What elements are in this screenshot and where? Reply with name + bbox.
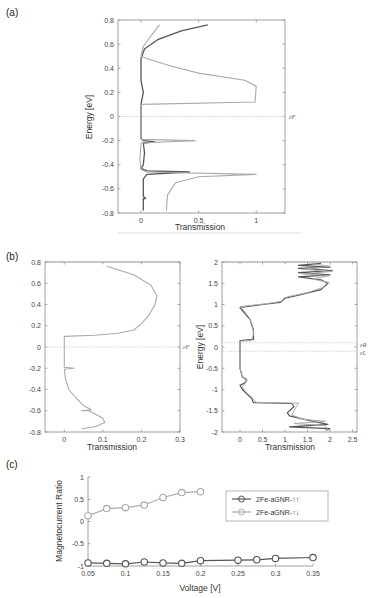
y-tick-label: 0	[37, 344, 41, 351]
y-tick-label: 0.6	[31, 280, 41, 287]
x-tick-label: 0.35	[306, 570, 320, 577]
data-point-marker	[197, 488, 203, 494]
data-point-marker	[272, 555, 278, 561]
fermi-label-a: εF	[289, 113, 297, 120]
y-tick-label: -1	[212, 386, 218, 393]
y-tick-label: 1.5	[208, 280, 218, 287]
figure-canvas: (a) (b) (c) 00.51-0.8-0.6-0.4-0.200.20.4…	[0, 0, 376, 598]
panel-label-a: (a)	[6, 7, 18, 18]
x-tick-label: 0	[238, 436, 242, 443]
y-tick-label: 0.2	[104, 89, 114, 96]
y-tick-label: -1.5	[206, 407, 218, 414]
y-tick-label: 0	[80, 518, 84, 525]
data-point-marker	[85, 513, 91, 519]
chart-b-right-xlabel: Transmission	[265, 442, 315, 452]
x-tick-label: 2	[328, 436, 332, 443]
fermi-label-right: εR	[360, 341, 367, 348]
data-point-marker	[85, 560, 91, 566]
chart-b-right-ylabel: Energy [eV]	[195, 325, 205, 369]
series-dark	[141, 25, 208, 211]
series-light	[140, 25, 256, 211]
series-light	[240, 264, 332, 431]
y-tick-label: -0.5	[72, 540, 84, 547]
data-point-marker	[310, 554, 316, 560]
y-tick-label: -0.5	[206, 365, 218, 372]
series-dark	[240, 263, 332, 430]
y-tick-label: -0.6	[102, 185, 114, 192]
chart-a: 00.51-0.8-0.6-0.4-0.200.20.40.60.8	[102, 17, 285, 225]
data-point-marker	[122, 561, 128, 567]
y-tick-label: 2	[214, 259, 218, 266]
data-point-marker	[235, 557, 241, 563]
y-tick-label: 0.2	[31, 322, 41, 329]
chart-c-ylabel: Magnetocurrent Ratio	[54, 480, 64, 562]
y-tick-label: -0.6	[29, 407, 41, 414]
panel-label-c: (c)	[6, 459, 18, 470]
chart-b-right: 00.511.522.5-2-1.5-1-0.500.511.52	[206, 259, 358, 444]
data-point-marker	[160, 560, 166, 566]
data-point-marker	[104, 560, 110, 566]
x-tick-label: 0.3	[175, 436, 185, 443]
y-tick-label: 0.4	[31, 301, 41, 308]
chart-a-ylabel: Energy [eV]	[84, 95, 94, 139]
y-tick-label: 0.5	[74, 496, 84, 503]
y-tick-label: 0.6	[104, 41, 114, 48]
x-tick-label: 0.2	[196, 570, 206, 577]
data-point-marker	[122, 505, 128, 511]
x-tick-label: 2.5	[348, 436, 358, 443]
panel-label-b: (b)	[6, 251, 18, 262]
series-light	[64, 266, 157, 429]
chart-a-xlabel: Transmission	[175, 222, 225, 232]
chart-b-left: 00.10.20.3-0.8-0.6-0.4-0.200.20.40.60.8	[29, 259, 185, 444]
y-tick-label: 0	[110, 113, 114, 120]
data-point-marker	[160, 494, 166, 500]
y-tick-label: 0.4	[104, 65, 114, 72]
y-tick-label: -0.2	[29, 365, 41, 372]
y-tick-label: -0.8	[102, 210, 114, 217]
y-tick-label: 1	[214, 301, 218, 308]
y-tick-label: -0.2	[102, 137, 114, 144]
y-tick-label: 0.5	[208, 322, 218, 329]
x-tick-label: 0.15	[156, 570, 170, 577]
chart-c: 0.050.10.150.20.250.30.35-1-0.500.51	[72, 474, 320, 578]
data-point-marker	[179, 489, 185, 495]
chart-b-left-xlabel: Transmission	[87, 442, 137, 452]
x-tick-label: 0	[139, 217, 143, 224]
data-point-marker	[254, 557, 260, 563]
data-point-marker	[179, 560, 185, 566]
y-tick-label: -2	[212, 429, 218, 436]
chart-c-legend: 2Fe-aGNR-↑↑ 2Fe-aGNR-↑↓	[226, 491, 328, 521]
chart-c-xlabel: Voltage [V]	[179, 583, 220, 593]
data-point-marker	[141, 559, 147, 565]
y-tick-label: -0.8	[29, 429, 41, 436]
data-point-marker	[104, 505, 110, 511]
x-tick-label: 0.1	[121, 570, 131, 577]
y-tick-label: -0.4	[29, 386, 41, 393]
fermi-label-b-left: εF	[183, 343, 191, 350]
y-tick-label: 0.8	[31, 259, 41, 266]
x-tick-label: 0.25	[231, 570, 245, 577]
x-tick-label: 0.2	[137, 436, 147, 443]
y-tick-label: 0	[214, 344, 218, 351]
x-tick-label: 0.05	[81, 570, 95, 577]
y-tick-label: 1	[80, 474, 84, 481]
y-tick-label: -1	[78, 563, 84, 570]
x-tick-label: 0.3	[271, 570, 281, 577]
data-point-marker	[197, 557, 203, 563]
fermi-label-left: εL	[360, 349, 367, 356]
legend-entry-parallel: 2Fe-aGNR-↑↑	[256, 496, 299, 503]
x-tick-label: 1	[254, 217, 258, 224]
y-tick-label: 0.8	[104, 17, 114, 24]
legend-entry-antiparallel: 2Fe-aGNR-↑↓	[256, 509, 299, 516]
data-point-marker	[141, 502, 147, 508]
x-tick-label: 0	[62, 436, 66, 443]
y-tick-label: -0.4	[102, 161, 114, 168]
